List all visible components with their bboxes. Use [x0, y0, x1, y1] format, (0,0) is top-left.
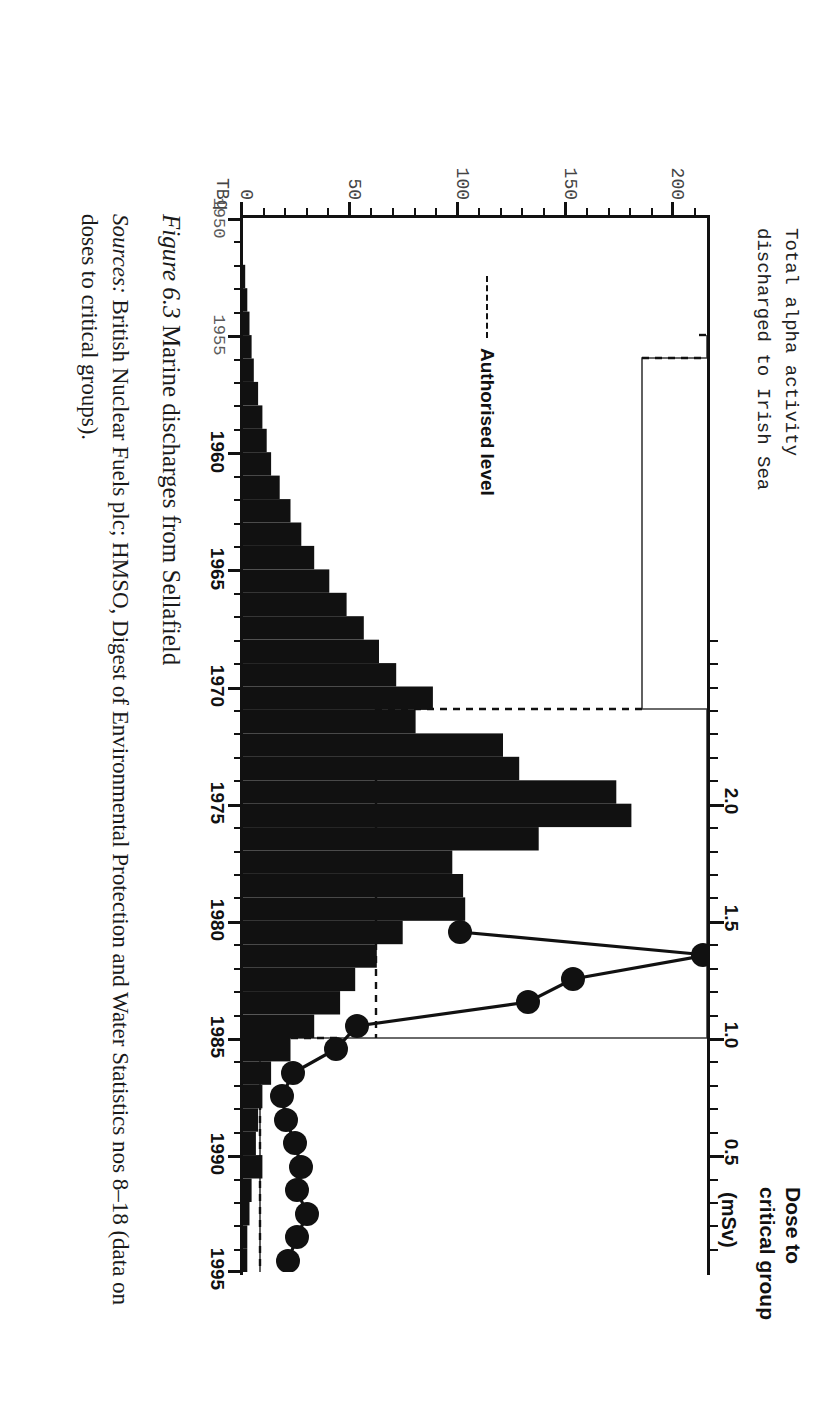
ttick-minor [708, 780, 718, 782]
xtick-1965 [228, 569, 242, 572]
xtick-minor [234, 1249, 242, 1251]
ttick-minor [708, 1132, 718, 1134]
caption-title-text: Marine discharges from Sellafield [158, 325, 185, 665]
ytick-minor [651, 208, 653, 217]
ytick-minor [392, 208, 394, 217]
ytick-minor [414, 208, 416, 217]
xtick-1995 [228, 1270, 242, 1273]
xtick-minor [234, 1015, 242, 1017]
ttick-label-2-0: 2.0 [720, 788, 742, 814]
xtick-minor [234, 1132, 242, 1134]
xtick-minor [234, 733, 242, 735]
xtick-minor [234, 1225, 242, 1227]
ttick-minor [708, 827, 718, 829]
xtick-minor [234, 265, 242, 267]
ytick-200 [672, 202, 675, 217]
ytick-minor [608, 208, 610, 217]
caption-sources-tag: Sources: [108, 214, 133, 294]
ytick-minor [435, 208, 437, 217]
rotated-figure-frame: Total alpha activity discharged to Irish… [0, 0, 828, 1404]
xtick-minor [234, 546, 242, 548]
xtick-1980 [228, 921, 242, 924]
xtick-minor [234, 710, 242, 712]
xtick-minor [234, 476, 242, 478]
xtick-minor [234, 1179, 242, 1181]
ttick-minor [708, 1249, 718, 1251]
ttick-minor [708, 991, 718, 993]
xtick-minor [234, 780, 242, 782]
ytick-0 [240, 202, 243, 217]
ttick-label-1-0: 1.0 [720, 1022, 742, 1048]
xtick-label-1955: 1955 [209, 315, 228, 356]
ttick-minor [708, 733, 718, 735]
left-axis-title-line1: Total alpha activity [776, 228, 804, 658]
ytick-150 [564, 202, 567, 217]
ttick-minor [708, 874, 718, 876]
xtick-minor [234, 593, 242, 595]
xtick-1955 [228, 335, 242, 338]
xtick-1950 [228, 218, 242, 221]
ytick-label-200: 200 [667, 142, 687, 200]
ytick-50 [348, 202, 351, 217]
ttick-minor [708, 710, 718, 712]
xtick-minor [234, 241, 242, 243]
plot-area [240, 215, 710, 1275]
ttick-minor [708, 968, 718, 970]
dose-axis-unit: (mSv) [717, 1192, 740, 1248]
ytick-label-0: 0 [236, 160, 256, 200]
xtick-1960 [228, 452, 242, 455]
ttick-minor [708, 1061, 718, 1063]
caption-title-line: Figure 6.3 Marine discharges from Sellaf… [154, 214, 188, 1344]
ttick-minor [708, 663, 718, 665]
xtick-label-1975: 1975 [206, 782, 228, 824]
ytick-minor [586, 208, 588, 217]
ytick-label-150: 150 [560, 142, 580, 200]
ttick-minor [708, 757, 718, 759]
left-axis-title-line2: discharged to Irish Sea [749, 228, 777, 658]
ttick-minor [708, 1202, 718, 1204]
xtick-minor [234, 1108, 242, 1110]
xtick-minor [234, 851, 242, 853]
ttick-minor [708, 640, 718, 642]
dose-axis-title-line1: Dose to [780, 1187, 806, 1320]
xtick-label-1950: 1950 [209, 198, 228, 239]
chart-svg [243, 218, 707, 1272]
figure-page: Total alpha activity discharged to Irish… [0, 0, 828, 1404]
xtick-minor [234, 874, 242, 876]
ttick-minor [708, 1225, 718, 1227]
ttick-minor [708, 1015, 718, 1017]
xtick-label-1990: 1990 [206, 1133, 228, 1175]
ytick-label-50: 50 [344, 150, 364, 200]
xtick-minor [234, 382, 242, 384]
ttick-minor [708, 687, 718, 689]
figure-caption: Figure 6.3 Marine discharges from Sellaf… [74, 214, 188, 1344]
ttick-minor [708, 1108, 718, 1110]
dose-axis-title-line2: critical group [755, 1187, 781, 1320]
alpha-activity-bars [243, 265, 631, 1272]
figure-canvas: Total alpha activity discharged to Irish… [0, 0, 828, 1404]
ytick-minor [522, 208, 524, 217]
ttick-label-1-5: 1.5 [720, 905, 742, 931]
ytick-minor [263, 208, 265, 217]
ytick-minor [478, 208, 480, 217]
ytick-minor [327, 208, 329, 217]
xtick-label-1970: 1970 [206, 665, 228, 707]
xtick-minor [234, 616, 242, 618]
caption-sources-line: Sources: British Nuclear Fuels plc; HMSO… [74, 214, 136, 1344]
xtick-minor [234, 944, 242, 946]
xtick-minor [234, 640, 242, 642]
xtick-minor [234, 429, 242, 431]
xtick-minor [234, 757, 242, 759]
ttick-minor [708, 851, 718, 853]
xtick-minor [234, 405, 242, 407]
xtick-label-1965: 1965 [206, 548, 228, 590]
xtick-1970 [228, 687, 242, 690]
ytick-minor [284, 208, 286, 217]
xtick-label-1960: 1960 [206, 431, 228, 473]
xtick-minor [234, 663, 242, 665]
xtick-1985 [228, 1038, 242, 1041]
xtick-minor [234, 312, 242, 314]
xtick-minor [234, 1061, 242, 1063]
xtick-1975 [228, 804, 242, 807]
ttick-minor [708, 944, 718, 946]
